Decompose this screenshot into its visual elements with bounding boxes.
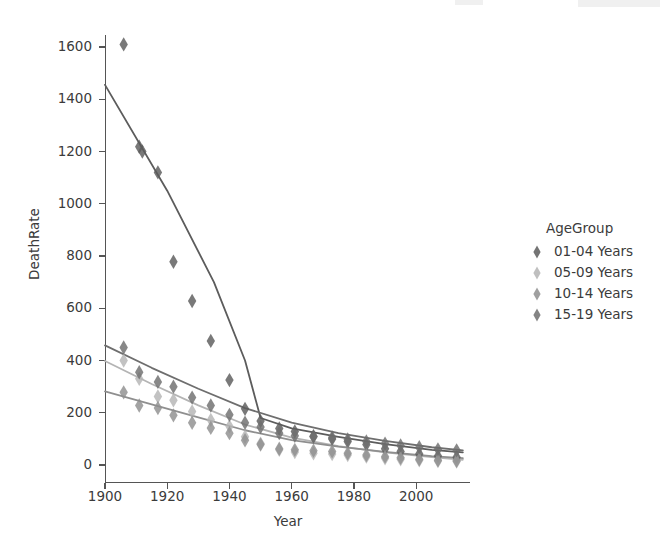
legend-item-label: 05-09 Years <box>554 266 633 280</box>
diamond-marker <box>528 285 546 303</box>
data-point-marker <box>207 334 215 348</box>
diamond-marker <box>528 243 546 261</box>
data-point-marker <box>154 375 162 389</box>
data-point-marker <box>169 255 177 269</box>
legend-item[interactable]: 15-19 Years <box>528 305 663 326</box>
diamond-marker <box>528 264 546 282</box>
data-point-marker <box>225 373 233 387</box>
legend-item[interactable]: 05-09 Years <box>528 263 663 284</box>
legend-title: AgeGroup <box>546 222 663 236</box>
data-point-marker <box>119 37 127 51</box>
data-point-marker <box>309 443 317 457</box>
legend-item[interactable]: 10-14 Years <box>528 284 663 305</box>
legend-item-label: 10-14 Years <box>554 287 633 301</box>
data-point-marker <box>207 421 215 435</box>
data-point-marker <box>169 379 177 393</box>
data-point-marker <box>241 415 249 429</box>
legend-item[interactable]: 01-04 Years <box>528 242 663 263</box>
legend-item-label: 15-19 Years <box>554 308 633 322</box>
data-point-marker <box>241 402 249 416</box>
data-point-marker <box>188 390 196 404</box>
figure-canvas: 02004006008001000120014001600 1900192019… <box>0 0 665 560</box>
data-point-marker <box>188 415 196 429</box>
legend-items: 01-04 Years05-09 Years10-14 Years15-19 Y… <box>528 242 663 326</box>
diamond-marker <box>528 306 546 324</box>
data-point-marker <box>207 398 215 412</box>
data-point-marker <box>256 437 264 451</box>
data-point-marker <box>154 401 162 415</box>
data-point-marker <box>291 443 299 457</box>
data-point-marker <box>154 165 162 179</box>
legend: AgeGroup 01-04 Years05-09 Years10-14 Yea… <box>528 222 663 326</box>
data-point-marker <box>188 294 196 308</box>
data-point-marker <box>275 442 283 456</box>
legend-item-label: 01-04 Years <box>554 245 633 259</box>
